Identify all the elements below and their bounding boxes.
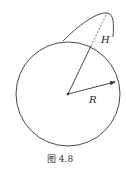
figure-caption: 图 4.8 bbox=[47, 154, 73, 164]
radius-line-to-surface bbox=[68, 46, 91, 94]
figure-diagram: H R 图 4.8 bbox=[0, 0, 126, 169]
radius-label: R bbox=[88, 94, 97, 105]
height-label: H bbox=[100, 34, 110, 45]
radius-arrow bbox=[68, 82, 115, 94]
